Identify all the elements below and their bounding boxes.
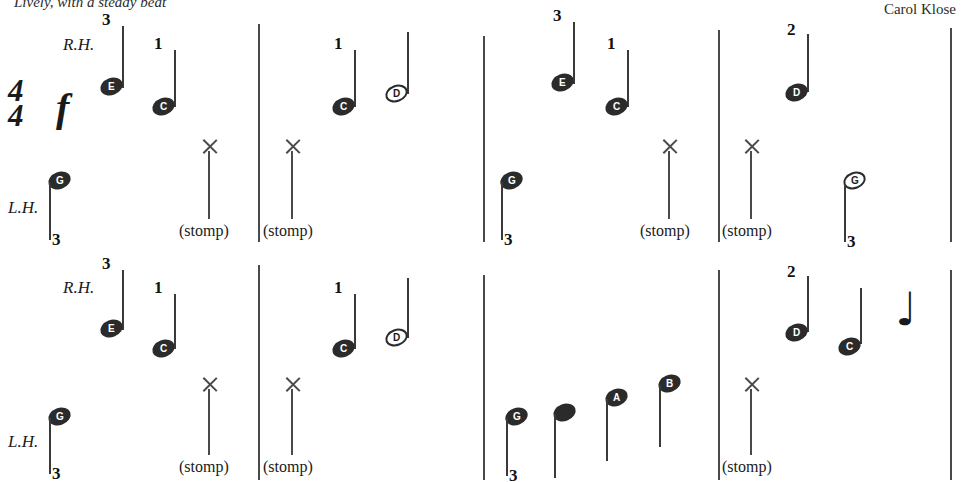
note-stem <box>291 151 293 219</box>
notehead-letter: D <box>793 87 800 98</box>
notehead-letter: D <box>793 327 800 338</box>
barline <box>718 270 720 480</box>
fingering-number: 3 <box>102 10 111 30</box>
note-stem <box>844 184 846 242</box>
fingering-number: 1 <box>607 34 616 54</box>
note-stem <box>174 50 176 107</box>
note-stem <box>407 32 409 94</box>
notehead-letter: C <box>340 101 347 112</box>
fingering-number: 3 <box>52 230 61 250</box>
notehead-letter: C <box>160 101 167 112</box>
notehead-letter: B <box>666 378 673 389</box>
stomp-label: (stomp) <box>722 458 772 476</box>
barline <box>483 36 485 242</box>
note-stem <box>554 414 556 478</box>
stomp-label: (stomp) <box>722 222 772 240</box>
note-stem <box>208 389 210 455</box>
note-stem <box>122 270 124 330</box>
fingering-number: 1 <box>154 278 163 298</box>
stomp-label: (stomp) <box>179 458 229 476</box>
composer-credit: Carol Klose <box>884 1 956 18</box>
fingering-number: 2 <box>787 20 796 40</box>
note-stem <box>122 26 124 88</box>
notehead-letter: D <box>393 332 400 343</box>
fingering-number: 3 <box>553 6 562 26</box>
dynamic-forte: f <box>56 84 69 131</box>
note-stem <box>208 151 210 219</box>
note-stem <box>354 50 356 107</box>
note-stem <box>860 288 862 344</box>
fingering-number: 3 <box>847 232 856 252</box>
stomp-label: (stomp) <box>263 222 313 240</box>
note-stem <box>354 294 356 349</box>
fingering-number: 1 <box>154 34 163 54</box>
fingering-number: 1 <box>334 278 343 298</box>
note-stem <box>291 389 293 455</box>
sheet-music-page: Lively, with a steady beat Carol Klose 4… <box>0 0 964 482</box>
note-stem <box>49 418 51 474</box>
note-stem <box>750 389 752 455</box>
fingering-number: 3 <box>102 254 111 274</box>
barline <box>950 270 952 480</box>
notehead-letter: C <box>613 101 620 112</box>
notehead-letter: G <box>56 411 64 422</box>
note-stem <box>668 151 670 219</box>
right-hand-label: R.H. <box>63 35 94 55</box>
barline <box>950 28 952 242</box>
note-stem <box>750 151 752 219</box>
tempo-marking: Lively, with a steady beat <box>14 0 166 11</box>
fingering-number: 3 <box>52 464 61 482</box>
notehead-letter: G <box>508 175 516 186</box>
barline <box>483 275 485 480</box>
notehead-letter: E <box>108 323 115 334</box>
left-hand-label: L.H. <box>8 432 38 452</box>
stomp-label: (stomp) <box>179 222 229 240</box>
fingering-number: 3 <box>509 466 518 482</box>
notehead-letter: C <box>160 343 167 354</box>
stomp-label: (stomp) <box>640 222 690 240</box>
notehead-letter: E <box>559 77 566 88</box>
quarter-rest: ♩ <box>895 286 917 332</box>
barline <box>258 265 260 480</box>
note-stem <box>659 385 661 447</box>
note-stem <box>606 399 608 461</box>
time-signature: 4 4 <box>8 78 24 128</box>
fingering-number: 1 <box>334 34 343 54</box>
notehead-letter: G <box>513 411 521 422</box>
notehead-letter: G <box>851 175 859 186</box>
fingering-number: 3 <box>504 230 513 250</box>
note-stem <box>807 276 809 332</box>
note-stem <box>501 182 503 240</box>
note-stem <box>49 182 51 240</box>
fingering-number: 2 <box>787 262 796 282</box>
left-hand-label: L.H. <box>8 198 38 218</box>
stomp-label: (stomp) <box>263 458 313 476</box>
right-hand-label: R.H. <box>63 278 94 298</box>
notehead-letter: D <box>393 88 400 99</box>
note-stem <box>627 50 629 107</box>
note-stem <box>807 34 809 92</box>
notehead-letter: G <box>56 175 64 186</box>
barline <box>258 24 260 242</box>
notehead-letter: C <box>340 343 347 354</box>
note-stem <box>407 278 409 338</box>
time-signature-unit: 4 <box>8 103 24 128</box>
barline <box>718 30 720 242</box>
note-stem <box>573 22 575 84</box>
note-stem <box>506 418 508 476</box>
notehead-letter: E <box>108 81 115 92</box>
note-stem <box>174 294 176 349</box>
notehead-letter: A <box>613 392 620 403</box>
notehead-letter: C <box>846 341 853 352</box>
